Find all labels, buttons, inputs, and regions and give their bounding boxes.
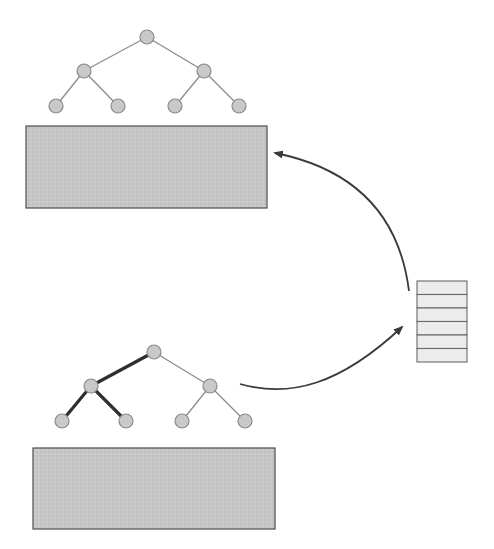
top-tree-node bbox=[77, 64, 91, 78]
top-tree-node bbox=[49, 99, 63, 113]
bottom-memory-block bbox=[33, 448, 275, 529]
top-memory-block bbox=[26, 126, 267, 208]
stack-slot bbox=[417, 335, 467, 349]
stack-buffer bbox=[417, 281, 467, 362]
stack-to-block-arrow bbox=[275, 153, 409, 291]
bottom-tree-node bbox=[55, 414, 69, 428]
bottom-tree-node bbox=[238, 414, 252, 428]
stack-slot bbox=[417, 281, 467, 295]
bottom-tree-node bbox=[203, 379, 217, 393]
bottom-tree-node bbox=[119, 414, 133, 428]
stack-slot bbox=[417, 308, 467, 322]
bottom-tree-edge-highlighted bbox=[91, 352, 154, 386]
top-tree-edge bbox=[84, 37, 147, 71]
bottom-tree-edge bbox=[154, 352, 210, 386]
top-tree-node bbox=[168, 99, 182, 113]
top-tree-edge bbox=[147, 37, 204, 71]
bottom-tree-node bbox=[84, 379, 98, 393]
diagram-canvas bbox=[0, 0, 494, 549]
top-tree-node bbox=[232, 99, 246, 113]
top-tree-nodes bbox=[49, 30, 246, 113]
stack-slot bbox=[417, 322, 467, 336]
top-tree-node bbox=[111, 99, 125, 113]
bottom-tree-nodes bbox=[55, 345, 252, 428]
stack-slot bbox=[417, 349, 467, 363]
stack-slot bbox=[417, 295, 467, 309]
tree-to-stack-arrow bbox=[240, 327, 402, 389]
bottom-tree-node bbox=[175, 414, 189, 428]
top-tree-node bbox=[197, 64, 211, 78]
top-tree-node bbox=[140, 30, 154, 44]
bottom-tree-node bbox=[147, 345, 161, 359]
